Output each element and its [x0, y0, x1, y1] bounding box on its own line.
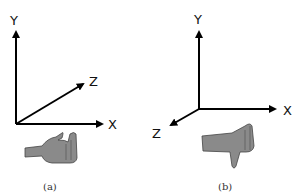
figure-a: Y X Z (a)	[9, 13, 117, 192]
z-label-a: Z	[89, 74, 98, 89]
y-label-a: Y	[9, 13, 18, 28]
y-label-b: Y	[193, 12, 202, 27]
left-hand-icon	[25, 133, 77, 164]
coordinate-systems-diagram: Y X Z (a) Y X Z (b)	[0, 0, 299, 194]
z-axis-a	[16, 84, 83, 124]
caption-b: (b)	[218, 181, 232, 192]
x-label-a: X	[108, 117, 117, 132]
figure-b: Y X Z (b)	[152, 12, 292, 192]
caption-a: (a)	[43, 181, 57, 192]
right-hand-icon	[202, 124, 254, 168]
z-label-b: Z	[152, 126, 161, 141]
x-label-b: X	[283, 103, 292, 118]
z-axis-b	[171, 109, 199, 125]
